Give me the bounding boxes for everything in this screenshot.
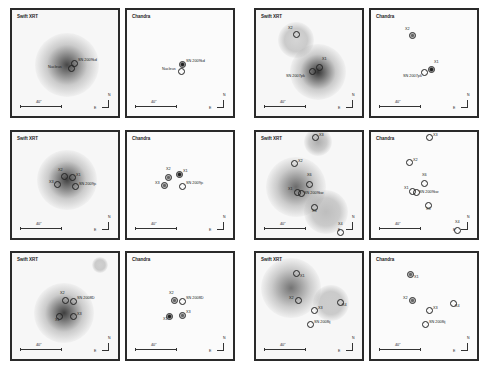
panel-title: Chandra <box>376 136 394 141</box>
source-region-circle <box>409 297 416 304</box>
east-arrow <box>217 350 224 351</box>
source-label: X1 <box>55 319 60 323</box>
image-panel-xrt: Swift XRTSN 2009kdNucleus40"NE <box>10 8 120 118</box>
source-label: SN 2008D <box>77 297 95 301</box>
source-region-circle <box>69 174 76 181</box>
east-arrow <box>102 107 109 108</box>
source-region-circle <box>421 180 428 187</box>
source-label: X6 <box>422 174 427 178</box>
source-region-circle <box>176 171 183 178</box>
source-label: X3 <box>49 181 54 185</box>
source-label: X3 <box>318 307 323 311</box>
image-panel-chandra: ChandraX3X2X6X1SN 2009kwX5X440"NE <box>369 130 479 240</box>
compass-arrows-icon: NE <box>456 339 470 353</box>
source-region-circle <box>293 270 300 277</box>
scale-bar <box>135 228 177 229</box>
source-label: Nucleus <box>48 66 62 70</box>
source-label: X2 <box>413 159 418 163</box>
source-label: X5 <box>312 210 317 214</box>
source-label: X3 <box>433 134 438 138</box>
image-panel-chandra: ChandraSN 2009kdNucleus40"NE <box>125 8 235 118</box>
panel-title: Chandra <box>132 14 150 19</box>
east-label: E <box>209 106 211 110</box>
east-label: E <box>209 228 211 232</box>
source-label: X1 <box>414 276 419 280</box>
source-region-circle <box>307 321 314 328</box>
compass-arrows-icon: NE <box>212 218 226 232</box>
source-label: SN 2007pk <box>403 75 422 79</box>
north-label: N <box>352 93 355 97</box>
source-region-circle <box>165 174 172 181</box>
source-region-circle <box>316 64 323 71</box>
image-panel-chandra: ChandraX2X1SN 2007pk40"NE <box>369 8 479 118</box>
xray-emission-blob <box>35 33 99 97</box>
source-label: X3 <box>433 307 438 311</box>
panel-title: Swift XRT <box>17 257 38 262</box>
north-label: N <box>108 215 111 219</box>
east-label: E <box>94 349 96 353</box>
source-label: SN 2009jc <box>79 183 97 187</box>
north-label: N <box>108 336 111 340</box>
source-label: X1 <box>288 188 293 192</box>
east-arrow <box>461 350 468 351</box>
east-label: E <box>209 349 211 353</box>
panel-title: Swift XRT <box>261 14 282 19</box>
east-label: E <box>94 106 96 110</box>
source-label: X2 <box>403 297 408 301</box>
source-region-circle <box>426 134 433 141</box>
north-label: N <box>352 215 355 219</box>
source-label: X3 <box>77 313 82 317</box>
north-label: N <box>352 336 355 340</box>
compass-arrows-icon: NE <box>341 218 355 232</box>
source-region-circle <box>171 297 178 304</box>
scale-label: 40" <box>151 222 157 226</box>
scale-label: 40" <box>36 343 42 347</box>
panel-title: Chandra <box>132 257 150 262</box>
scale-bar <box>264 228 306 229</box>
source-region-circle <box>54 181 61 188</box>
source-label: X2 <box>298 160 303 164</box>
source-label: X1 <box>76 174 81 178</box>
image-panel-xrt: Swift XRTX3X2X6X1SN 2009kwX5X440"NE <box>254 130 364 240</box>
source-label: SN 2009kw <box>304 192 323 196</box>
compass-arrows-icon: NE <box>212 96 226 110</box>
source-label: X1 <box>434 61 439 65</box>
source-label: X1 <box>404 187 409 191</box>
image-panel-chandra: ChandraX1X2X4X3SN 2008ij40"NE <box>369 251 479 361</box>
compass-arrows-icon: NE <box>97 339 111 353</box>
scale-label: 40" <box>151 343 157 347</box>
source-label: SN 2009kd <box>78 59 97 63</box>
source-label: SN 2007pk <box>286 75 305 79</box>
source-region-circle <box>62 297 69 304</box>
xray-emission-blob <box>92 257 108 273</box>
compass-arrows-icon: NE <box>341 339 355 353</box>
source-region-circle <box>291 160 298 167</box>
scale-label: 40" <box>395 100 401 104</box>
scale-label: 40" <box>151 100 157 104</box>
source-label: X2 <box>405 28 410 32</box>
scale-label: 40" <box>395 343 401 347</box>
panel-title: Swift XRT <box>261 136 282 141</box>
east-label: E <box>453 106 455 110</box>
north-label: N <box>467 215 470 219</box>
image-panel-chandra: ChandraX2SN 2008DX1X340"NE <box>125 251 235 361</box>
source-label: X5 <box>426 208 431 212</box>
source-label: X2 <box>289 297 294 301</box>
scale-bar <box>379 228 421 229</box>
compass-arrows-icon: NE <box>97 218 111 232</box>
panel-title: Swift XRT <box>261 257 282 262</box>
north-label: N <box>467 93 470 97</box>
east-label: E <box>338 228 340 232</box>
source-region-circle <box>309 68 316 75</box>
image-panel-xrt: Swift XRTX2SN 2008DX1X340"NE <box>10 251 120 361</box>
source-label: X2 <box>166 168 171 172</box>
source-label: X1 <box>163 318 168 322</box>
panel-title: Chandra <box>376 257 394 262</box>
source-region-circle <box>311 307 318 314</box>
source-region-circle <box>407 271 414 278</box>
east-arrow <box>102 350 109 351</box>
source-region-circle <box>72 183 79 190</box>
source-label: X1 <box>300 275 305 279</box>
north-label: N <box>223 336 226 340</box>
scale-label: 40" <box>280 222 286 226</box>
